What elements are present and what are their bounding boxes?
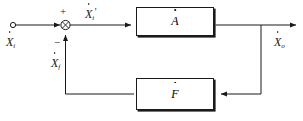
- label-feedback-signal: Xf: [51, 57, 60, 69]
- block-feedback-gain-label: F: [171, 87, 178, 102]
- block-forward-gain-label: A: [171, 14, 178, 29]
- block-diagram: A F + − Xi Xi' Xf Xo: [0, 0, 303, 121]
- minus-sign: −: [54, 37, 60, 48]
- block-forward-gain: A: [136, 7, 214, 36]
- label-error-signal: Xi': [85, 8, 96, 20]
- label-output-signal: Xo: [274, 36, 285, 48]
- plus-sign: +: [60, 6, 66, 17]
- label-input-signal: Xi: [6, 36, 15, 48]
- block-feedback-gain: F: [136, 78, 214, 110]
- input-terminal-icon: [10, 22, 15, 27]
